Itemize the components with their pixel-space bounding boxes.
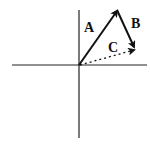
label-c: C [108,40,118,55]
vector-diagram: A B C [0,0,150,145]
label-a: A [84,20,95,35]
label-b: B [131,16,140,31]
